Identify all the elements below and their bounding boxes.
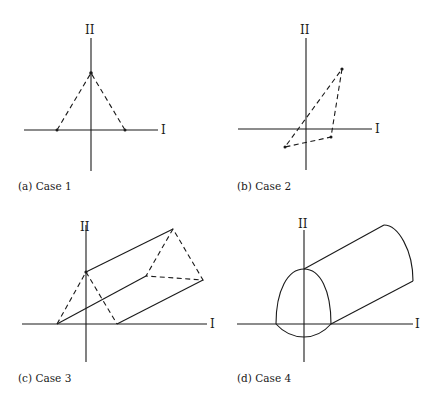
vertex-point: [340, 67, 343, 70]
vertex-point: [84, 270, 87, 273]
panel-c: II I (c) Case 3: [18, 220, 215, 384]
caption-d: (d) Case 4: [237, 372, 291, 384]
axis-ii-label: II: [300, 23, 310, 37]
axis-i-label: I: [161, 123, 166, 137]
front-triangle: [57, 272, 117, 324]
back-triangle: [146, 229, 203, 280]
vertex-point: [124, 129, 127, 132]
back-profile: [384, 225, 413, 281]
vertex-point: [56, 129, 59, 132]
cylinder-edge: [331, 281, 413, 324]
panel-d: II I (d) Case 4: [237, 217, 420, 384]
caption-b: (b) Case 2: [237, 180, 291, 192]
axis-i-label: I: [210, 317, 215, 331]
caption-a: (a) Case 1: [18, 180, 72, 192]
axis-ii-label: II: [298, 217, 308, 231]
prism-edge: [86, 229, 173, 272]
dashed-triangle: [285, 69, 342, 147]
panel-b: II I (b) Case 2: [237, 23, 380, 192]
vertex-point: [89, 71, 93, 75]
panel-a: II I (a) Case 1: [18, 23, 166, 192]
vertex-point: [330, 136, 333, 139]
axis-ii-label: II: [80, 220, 90, 234]
axis-ii-label: II: [85, 23, 95, 37]
axis-i-label: I: [415, 317, 420, 331]
vertex-point: [284, 146, 287, 149]
prism-edge: [117, 280, 203, 324]
caption-c: (c) Case 3: [18, 372, 71, 384]
figure-canvas: II I (a) Case 1 II I (b) Case 2 II I (c)…: [0, 0, 438, 403]
cylinder-edge: [304, 225, 384, 269]
axis-i-label: I: [375, 122, 380, 136]
